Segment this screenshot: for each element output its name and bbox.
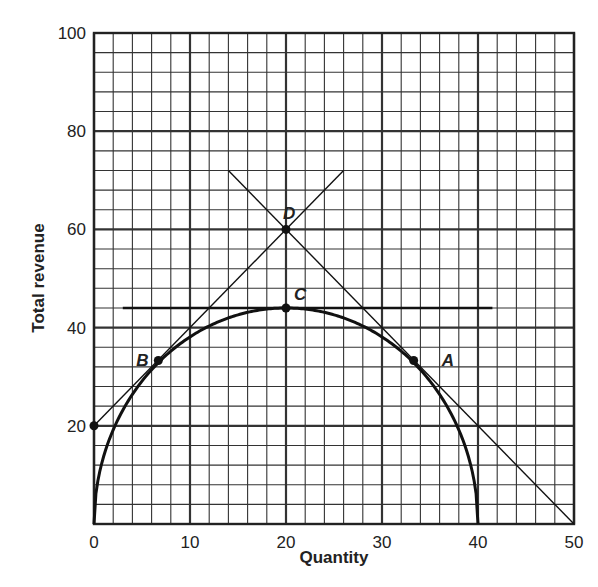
x-axis-label: Quantity: [300, 548, 369, 567]
y-tick-label: 40: [67, 319, 86, 338]
point-marker: [154, 356, 163, 365]
point-label-b: B: [136, 351, 148, 370]
x-tick-label: 30: [373, 533, 392, 552]
point-marker: [282, 225, 291, 234]
point-label-a: A: [441, 351, 454, 370]
point-marker: [282, 303, 291, 312]
y-tick-label: 60: [67, 220, 86, 239]
x-tick-label: 40: [469, 533, 488, 552]
y-tick-label: 100: [58, 24, 86, 43]
y-tick-label: 80: [67, 122, 86, 141]
y-axis-label: Total revenue: [29, 223, 48, 332]
points-layer: ABCD: [90, 204, 454, 430]
x-tick-label: 10: [181, 533, 200, 552]
point-label-d: D: [283, 204, 295, 223]
point-marker: [90, 421, 99, 430]
x-tick-label: 0: [89, 533, 98, 552]
point-label-c: C: [294, 285, 307, 304]
x-tick-label: 20: [277, 533, 296, 552]
y-tick-label: 20: [67, 417, 86, 436]
total-revenue-chart: ABCD 0102030405020406080100 Quantity Tot…: [0, 0, 598, 587]
x-tick-label: 50: [565, 533, 584, 552]
point-marker: [409, 356, 418, 365]
